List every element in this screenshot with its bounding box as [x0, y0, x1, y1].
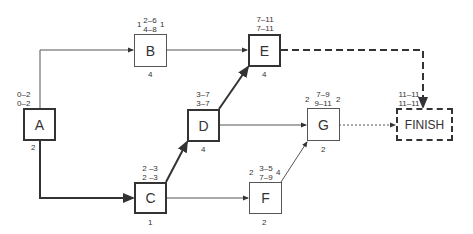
node-g-times: 7–9 9–11	[310, 90, 336, 108]
node-b-slack-right: 1	[160, 20, 164, 29]
node-b-duration: 4	[148, 70, 152, 79]
edge-d-e	[219, 67, 248, 109]
node-d-times: 3–7 3–7	[193, 90, 213, 108]
node-e-duration: 4	[262, 70, 266, 79]
node-g-slack-right: 2	[336, 95, 340, 104]
node-e-ls-lf: 7–11	[252, 24, 278, 33]
node-b-es-ef: 2–6	[140, 16, 160, 25]
node-a-label: A	[35, 117, 44, 133]
node-e[interactable]: E	[248, 34, 281, 67]
node-d-label: D	[198, 118, 208, 134]
node-e-times: 7–11 7–11	[252, 15, 278, 33]
node-f-slack-left: 2	[249, 168, 253, 177]
node-d-duration: 4	[201, 145, 205, 154]
node-b[interactable]: B	[134, 34, 167, 67]
node-g-slack-left: 2	[305, 95, 309, 104]
node-a-duration: 2	[31, 143, 35, 152]
node-a-ls-lf: 0–2	[17, 99, 37, 108]
node-f-slack-right: 4	[276, 168, 280, 177]
node-d[interactable]: D	[187, 109, 220, 142]
node-g[interactable]: G	[307, 108, 340, 141]
node-g-duration: 2	[321, 145, 325, 154]
edge-a-c	[40, 140, 133, 198]
node-finish[interactable]: FINISH	[396, 108, 453, 141]
node-e-label: E	[260, 43, 269, 59]
node-a-es-ef: 0–2	[17, 90, 37, 99]
node-d-es-ef: 3–7	[193, 90, 213, 99]
edge-f-g	[281, 142, 307, 182]
node-finish-ls-lf: 11–11	[397, 99, 421, 108]
node-f-es-ef: 3–5	[255, 164, 277, 173]
node-g-es-ef: 7–9	[310, 90, 336, 99]
node-b-ls-lf: 4–8	[140, 25, 160, 34]
node-e-es-ef: 7–11	[252, 15, 278, 24]
node-g-ls-lf: 9–11	[310, 99, 336, 108]
node-finish-label: FINISH	[405, 118, 444, 132]
node-d-ls-lf: 3–7	[193, 99, 213, 108]
node-finish-es-ef: 11–11	[397, 90, 421, 99]
node-c-ls-lf: 2 –3	[138, 173, 162, 182]
node-b-label: B	[146, 43, 155, 59]
edge-a-b	[40, 50, 133, 108]
node-c-times: 2 –3 2 –3	[138, 164, 162, 182]
node-c-es-ef: 2 –3	[138, 164, 162, 173]
node-finish-times: 11–11 11–11	[397, 90, 421, 108]
node-a[interactable]: A	[23, 108, 56, 141]
node-b-times: 2–6 4–8	[140, 16, 160, 34]
node-a-times: 0–2 0–2	[17, 90, 37, 108]
node-f[interactable]: F	[249, 182, 282, 214]
node-f-label: F	[261, 190, 270, 206]
node-c-label: C	[145, 190, 155, 206]
edge-c-d	[166, 142, 187, 182]
node-g-label: G	[318, 117, 329, 133]
node-c-duration: 1	[148, 218, 152, 227]
node-c[interactable]: C	[134, 182, 167, 214]
node-f-times: 3–5 7–9	[255, 164, 277, 182]
node-f-duration: 2	[262, 218, 266, 227]
node-f-ls-lf: 7–9	[255, 173, 277, 182]
